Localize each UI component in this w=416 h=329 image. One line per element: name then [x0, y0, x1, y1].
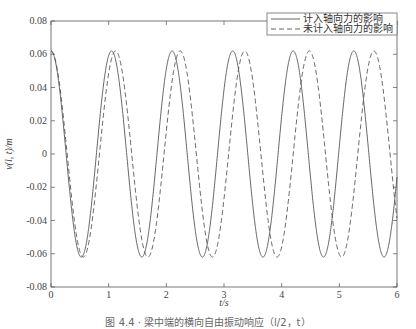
y-tick-label: -0.08: [26, 281, 47, 292]
y-tick-label: 0.04: [30, 82, 48, 93]
x-axis-label: t/s: [219, 297, 229, 308]
y-tick-label: -0.04: [26, 215, 47, 226]
series-dashed-line: [51, 51, 397, 257]
plot-frame: [51, 21, 397, 287]
x-axis-ticks: 0123456: [49, 21, 400, 300]
y-tick-label: 0: [42, 148, 47, 159]
x-tick-label: 4: [279, 289, 284, 300]
y-tick-label: -0.06: [26, 248, 47, 259]
x-tick-label: 1: [106, 289, 111, 300]
y-tick-label: 0.02: [30, 115, 48, 126]
legend-item-dashed: 未计入轴向力的影响: [303, 22, 393, 34]
x-tick-label: 2: [164, 289, 169, 300]
x-tick-label: 5: [337, 289, 342, 300]
figure-caption: 图 4.4 · 梁中端的横向自由振动响应（l/2，t）: [0, 314, 416, 329]
y-tick-label: -0.02: [26, 181, 47, 192]
legend: 计入轴向力的影响 未计入轴向力的影响: [267, 12, 397, 35]
x-tick-label: 0: [49, 289, 54, 300]
y-axis-label: v(l, t)/m: [3, 138, 15, 170]
y-tick-label: 0.08: [30, 15, 48, 26]
plot-series: [51, 51, 397, 257]
y-tick-label: 0.06: [30, 48, 48, 59]
y-axis-ticks: 0.080.060.040.020-0.02-0.04-0.06-0.08: [26, 15, 397, 292]
series-solid-line: [51, 51, 397, 257]
x-tick-label: 6: [395, 289, 400, 300]
